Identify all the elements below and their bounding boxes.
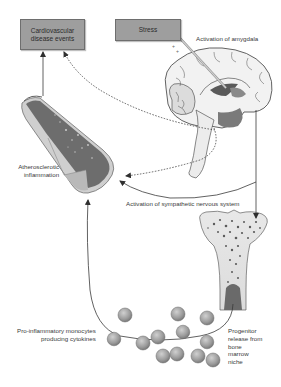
progenitor-label-line: niche — [228, 358, 262, 366]
monocytes-label-line1: Pro-inflammatory monocytes — [17, 327, 96, 335]
monocytes-label-line2: producing cytokines — [17, 335, 96, 343]
progenitor-label-line: Progenitor — [228, 327, 262, 335]
plus-sign-icon: + — [172, 43, 175, 49]
progenitor-label: Progenitor release from bone marrow nich… — [228, 327, 262, 366]
progenitor-label-line: bone — [228, 343, 262, 351]
cvd-events-label-line1: Cardiovascular — [31, 27, 74, 35]
plus-sign-icon: + — [176, 48, 179, 54]
cvd-events-box: Cardiovascular disease events — [20, 19, 85, 50]
atherosclerosis-label: Atherosclerotic inflammation — [18, 163, 59, 179]
progenitor-label-line: marrow — [228, 350, 262, 358]
stress-box: Stress — [115, 19, 181, 41]
atherosclerosis-label-line2: inflammation — [18, 171, 59, 179]
atherosclerosis-label-line1: Atherosclerotic — [18, 163, 59, 171]
bone-marrow-illustration — [200, 210, 268, 310]
stress-label: Stress — [139, 26, 157, 34]
amygdala-label: Activation of amygdala — [196, 35, 258, 43]
sns-label: Activation of sympathetic nervous system — [126, 200, 239, 208]
progenitor-label-line: release from — [228, 335, 262, 343]
cvd-events-label-line2: disease events — [31, 35, 74, 43]
monocytes-label: Pro-inflammatory monocytes producing cyt… — [17, 327, 96, 343]
